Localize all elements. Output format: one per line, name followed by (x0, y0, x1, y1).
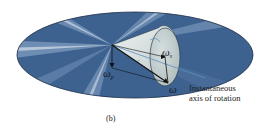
omega-label: ω (169, 84, 177, 95)
omega-s-label: ωs (162, 47, 172, 59)
rotating-disk (0, 0, 269, 133)
omega-p-label: ωp (103, 68, 114, 80)
annotation-line-2: axis of rotation (189, 94, 240, 104)
panel-label: (b) (106, 115, 115, 123)
rolling-cone-diagram: ωs ωp ω Instantaneous axis of rotation (… (0, 0, 269, 133)
axis-annotation: Instantaneous axis of rotation (189, 84, 240, 103)
diagram-canvas (0, 0, 269, 133)
